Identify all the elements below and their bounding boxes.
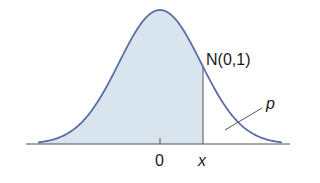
tick-label-zero: 0 [155,153,164,169]
curve-label: N(0,1) [206,52,250,68]
shaded-area [38,10,203,144]
tick-label-x: x [198,153,206,169]
tail-label: p [266,96,275,112]
curve-label-text: N(0,1) [206,51,250,68]
